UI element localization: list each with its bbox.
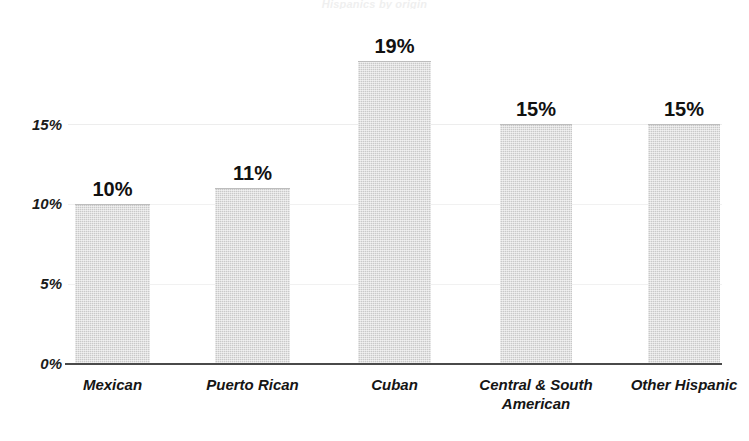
y-tick-label-0: 0% bbox=[4, 356, 62, 371]
bar-mexican[interactable] bbox=[75, 204, 150, 363]
bar-value-other-hispanic: 15% bbox=[648, 99, 720, 119]
x-category-label-central-south-american: Central & South American bbox=[468, 375, 604, 413]
bar-value-mexican: 10% bbox=[75, 179, 150, 199]
y-axis: 15% 10% 5% 0% bbox=[0, 20, 62, 364]
bar-cuban[interactable] bbox=[358, 61, 431, 363]
bar-chart-figure: Hispanics by origin 15% 10% 5% 0% 10% 11… bbox=[0, 0, 749, 441]
bar-other-hispanic[interactable] bbox=[648, 124, 720, 363]
x-category-label-cuban: Cuban bbox=[337, 375, 452, 394]
plot-area: 10% 11% 19% 15% 15% Mexican Puerto Rican… bbox=[68, 20, 722, 364]
y-tick-label-10: 10% bbox=[4, 196, 62, 211]
bar-central-south-american[interactable] bbox=[500, 124, 572, 363]
bar-value-central-south-american: 15% bbox=[500, 99, 572, 119]
x-axis-baseline bbox=[65, 363, 722, 365]
bar-value-cuban: 19% bbox=[358, 36, 431, 56]
x-category-label-other-hispanic: Other Hispanic bbox=[621, 375, 747, 394]
cut-off-title: Hispanics by origin bbox=[0, 0, 749, 9]
x-category-label-mexican: Mexican bbox=[55, 375, 170, 394]
bar-puerto-rican[interactable] bbox=[215, 188, 290, 363]
y-tick-label-5: 5% bbox=[4, 276, 62, 291]
y-tick-label-15: 15% bbox=[4, 117, 62, 132]
x-category-label-puerto-rican: Puerto Rican bbox=[190, 375, 315, 394]
bar-value-puerto-rican: 11% bbox=[215, 163, 290, 183]
